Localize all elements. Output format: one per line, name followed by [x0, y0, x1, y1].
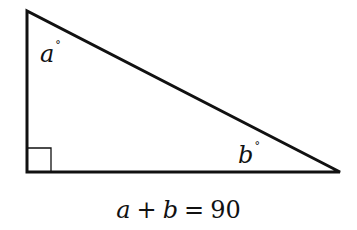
angle-a-label: a°	[40, 42, 61, 66]
triangle-outline	[27, 11, 340, 172]
angle-sum-equation: a+b=90	[0, 198, 357, 222]
degree-symbol: °	[55, 39, 61, 52]
degree-symbol: °	[254, 140, 260, 153]
right-triangle-diagram: a° b° a+b=90	[0, 0, 357, 230]
angle-b-label: b°	[238, 143, 260, 167]
right-angle-marker	[27, 148, 51, 172]
